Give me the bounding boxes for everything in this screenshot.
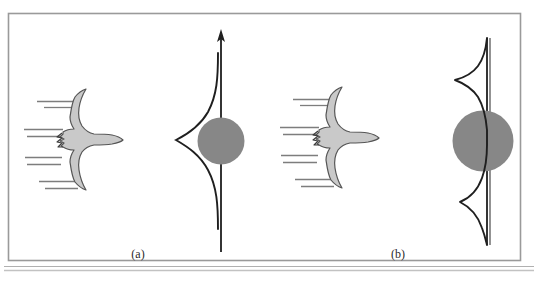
panel-caption-a: (a) [131,247,144,261]
scattering-sphere-a [198,118,245,165]
figure-canvas: (a) [0,0,538,290]
panel-caption-b: (b) [391,247,405,261]
scattering-sphere-b [453,111,514,172]
figure-root: (a) [0,0,538,290]
